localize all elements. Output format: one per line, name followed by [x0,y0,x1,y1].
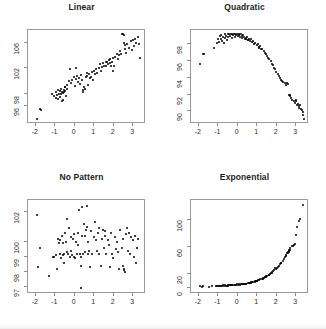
data-point [126,227,128,229]
panel-title-quadratic: Quadratic [163,2,326,12]
data-point [130,236,132,238]
x-axis-label: 0 [230,128,244,136]
data-point [96,250,98,252]
data-point [59,239,61,241]
x-axis-tick [295,293,296,296]
data-point [100,70,102,72]
data-point [302,114,304,116]
data-point [83,223,85,225]
x-axis-label: -1 [47,298,61,306]
data-point [65,241,67,243]
y-axis-label: 90 [176,110,184,124]
data-point [86,226,88,228]
data-point [68,227,70,229]
data-point [63,253,65,255]
data-point [59,96,61,98]
data-point [135,262,137,264]
data-point [283,258,285,260]
data-point [226,39,228,41]
x-axis-label: -2 [28,128,42,136]
y-axis-label: 96 [176,60,184,74]
data-point [109,266,111,268]
data-point [66,84,68,86]
data-point [117,251,119,253]
data-point [70,82,72,84]
data-point [74,85,76,87]
y-axis-label: 98 [13,93,21,107]
x-axis-tick [276,293,277,296]
page-edge-artifact [0,324,326,329]
data-point [53,256,55,258]
x-axis-label: 2 [269,298,283,306]
x-axis-label: 2 [106,298,120,306]
x-axis-tick [132,123,133,126]
data-point [100,265,102,267]
x-axis-tick [113,123,114,126]
data-point [239,284,241,286]
data-point [110,65,112,67]
y-axis-tick [24,241,27,242]
data-point [136,247,138,249]
data-point [112,70,114,72]
data-point [223,42,225,44]
data-point [92,79,94,81]
data-point [137,36,139,38]
plot-area-linear [27,29,145,123]
data-point [61,235,63,237]
data-point [84,235,86,237]
data-point [114,236,116,238]
y-axis-tick [187,60,190,61]
panel-exponential: Exponential -2-1012302060100 [163,172,326,329]
data-point [87,241,89,243]
data-point [60,88,62,90]
x-axis-label: 3 [125,298,139,306]
data-point [94,221,96,223]
data-point [282,260,284,262]
data-point [294,243,296,245]
data-point [111,61,113,63]
data-point [271,272,273,274]
x-axis-tick [113,293,114,296]
panel-title-no-pattern: No Pattern [0,172,163,182]
data-point [296,226,298,228]
data-point [65,95,67,97]
data-point [109,58,111,60]
data-point [99,63,101,65]
data-point [285,255,287,257]
data-point [133,45,135,47]
y-axis-label: 92 [176,94,184,108]
x-axis-tick [256,123,257,126]
panel-title-linear: Linear [0,2,163,12]
data-point [133,256,135,258]
x-axis-tick [74,123,75,126]
data-point [60,257,62,259]
y-axis-label: 60 [176,246,184,260]
data-point [218,41,220,43]
data-point [245,283,247,285]
data-point [134,38,136,40]
data-point [97,232,99,234]
y-axis-label: 96 [13,105,21,119]
data-point [124,48,126,50]
data-point [78,77,80,79]
y-axis-tick [187,110,190,111]
plot-area-no-pattern [27,199,145,293]
data-point [131,49,133,51]
data-point [128,47,130,49]
data-point [199,63,201,65]
x-axis-label: 2 [106,128,120,136]
x-axis-label: 1 [249,128,263,136]
data-point [86,205,88,207]
data-point [96,72,98,74]
data-point [90,230,92,232]
data-point [108,244,110,246]
data-point [105,65,107,67]
data-point [64,90,66,92]
data-point [81,206,83,208]
data-point [122,265,124,267]
data-point [134,235,136,237]
data-point [105,253,107,255]
data-point [270,60,272,62]
data-point [123,34,125,36]
y-axis-tick [24,67,27,68]
